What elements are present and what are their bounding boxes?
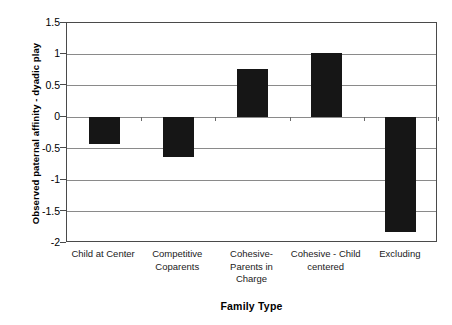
x-axis-title: Family Type xyxy=(66,300,437,312)
x-tick-mark xyxy=(215,117,216,121)
bar xyxy=(89,117,120,143)
y-tick-label: -1.5 xyxy=(8,205,66,216)
x-tick-mark xyxy=(141,117,142,121)
gridline xyxy=(67,211,436,212)
bar xyxy=(163,117,194,157)
x-axis-labels: Child at CenterCompetitive CoparentsCohe… xyxy=(66,248,437,294)
x-tick-mark xyxy=(290,117,291,121)
x-tick-label: Competitive Coparents xyxy=(140,248,214,273)
x-tick-label: Cohesive-Parents in Charge xyxy=(214,248,288,286)
y-tick-label: -2 xyxy=(8,237,66,248)
bar xyxy=(311,53,342,118)
y-tick-label: 0.5 xyxy=(8,80,66,91)
y-tick-label: -0.5 xyxy=(8,142,66,153)
bar xyxy=(385,117,416,232)
bar-chart: Observed paternal affinity - dyadic play… xyxy=(0,0,452,325)
plot-area xyxy=(66,22,437,242)
x-tick-label: Cohesive - Child centered xyxy=(289,248,363,273)
y-tick-label: 1 xyxy=(8,48,66,59)
y-tick-label: -1 xyxy=(8,174,66,185)
x-tick-label: Excluding xyxy=(363,248,437,261)
gridline xyxy=(67,180,436,181)
x-tick-label: Child at Center xyxy=(66,248,140,261)
y-tick-label: 1.5 xyxy=(8,17,66,28)
y-axis-ticks: 1.510.50-0.5-1-1.5-2 xyxy=(0,22,66,242)
bar xyxy=(237,69,268,117)
gridline xyxy=(67,54,436,55)
x-tick-mark xyxy=(438,117,439,121)
y-tick-label: 0 xyxy=(8,111,66,122)
x-tick-mark xyxy=(364,117,365,121)
gridline xyxy=(67,148,436,149)
